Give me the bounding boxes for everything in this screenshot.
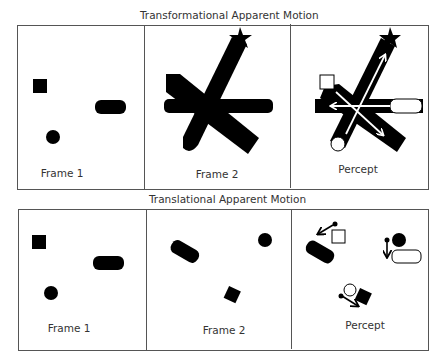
- top-frame2-label: Frame 2: [196, 168, 239, 180]
- percept-rect-outline: [390, 99, 422, 113]
- bottom-frame2-label: Frame 2: [203, 324, 246, 336]
- circle-shape: [46, 130, 60, 144]
- square-shape: [33, 79, 47, 93]
- bottom-percept-shapes: [304, 222, 421, 307]
- top-frame2-shapes: [164, 27, 273, 154]
- top-percept-label: Percept: [338, 163, 378, 175]
- bottom-percept-label: Percept: [345, 319, 385, 331]
- bottom-frame1-shapes: [32, 235, 124, 300]
- top-percept-shapes: [315, 27, 423, 152]
- percept-square-outline: [320, 75, 334, 89]
- bottom-frame1-label: Frame 1: [48, 322, 91, 334]
- rounded-rect-shape: [95, 100, 126, 114]
- top-frame1-label: Frame 1: [41, 167, 84, 179]
- top-frame1-shapes: [33, 79, 126, 144]
- diagram-shapes: [0, 0, 444, 360]
- bottom-frame2-shapes: [168, 233, 272, 303]
- percept-circle-outline: [331, 137, 345, 151]
